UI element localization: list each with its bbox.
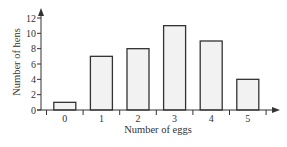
y-tick-label: 6 bbox=[31, 59, 36, 70]
x-axis-ticks: 012345 bbox=[47, 110, 267, 124]
x-tick-label: 5 bbox=[245, 113, 250, 124]
bar-0 bbox=[54, 102, 76, 110]
bar-3 bbox=[164, 26, 186, 110]
y-tick-label: 8 bbox=[31, 43, 36, 54]
x-tick-label: 0 bbox=[62, 113, 67, 124]
y-tick-label: 0 bbox=[31, 105, 36, 116]
bars bbox=[54, 26, 259, 110]
x-axis-arrow-icon bbox=[272, 107, 280, 113]
y-tick-label: 12 bbox=[26, 13, 36, 24]
y-axis-arrow-icon bbox=[38, 8, 44, 16]
x-axis-title: Number of eggs bbox=[124, 124, 192, 135]
bar-chart: 024681012 012345 Number of eggs Number o… bbox=[0, 0, 287, 147]
y-axis-title: Number of hens bbox=[11, 28, 22, 96]
y-tick-label: 2 bbox=[31, 89, 36, 100]
x-tick-label: 2 bbox=[136, 113, 141, 124]
bar-4 bbox=[200, 41, 222, 110]
y-axis-ticks: 024681012 bbox=[26, 13, 41, 116]
x-tick-label: 3 bbox=[172, 113, 177, 124]
x-tick-label: 1 bbox=[99, 113, 104, 124]
bar-1 bbox=[90, 56, 112, 110]
bar-5 bbox=[237, 79, 259, 110]
x-tick-label: 4 bbox=[209, 113, 214, 124]
y-tick-label: 4 bbox=[31, 74, 36, 85]
bar-2 bbox=[127, 49, 149, 110]
y-tick-label: 10 bbox=[26, 28, 36, 39]
